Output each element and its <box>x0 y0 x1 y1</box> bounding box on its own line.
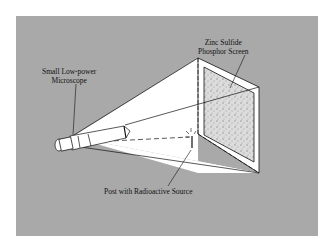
phosphor-screen <box>198 58 259 173</box>
scintillation-diagram <box>0 0 334 250</box>
screen-label: Zinc Sulfide Phosphor Screen <box>198 38 249 56</box>
microscope-label: Small Low-power Microscope <box>42 67 96 85</box>
source-label: Post with Radioactive Source <box>104 187 193 196</box>
